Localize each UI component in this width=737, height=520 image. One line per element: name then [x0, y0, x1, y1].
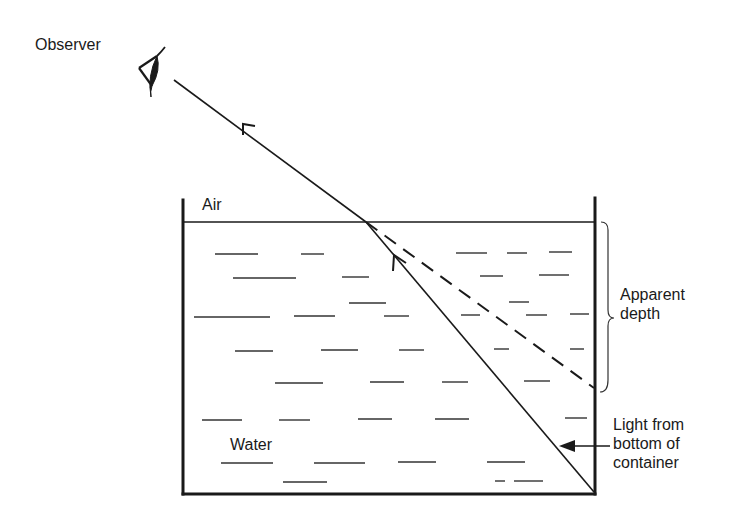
apparent-depth-label: Apparent depth	[620, 285, 685, 323]
apparent-depth-line1: Apparent	[620, 285, 685, 304]
pointer-arrowhead-icon	[559, 440, 575, 452]
light-source-label: Light from bottom of container	[613, 415, 684, 472]
water-label: Water	[230, 435, 272, 454]
light-label-line3: container	[613, 453, 684, 472]
eye-icon	[139, 47, 165, 97]
ray-in-water	[366, 222, 594, 492]
light-label-line2: bottom of	[613, 434, 684, 453]
light-ray	[174, 80, 594, 492]
light-pointer	[559, 440, 610, 452]
apparent-depth-brace	[600, 222, 614, 392]
light-label-line1: Light from	[613, 415, 684, 434]
air-label: Air	[202, 195, 222, 214]
apparent-ray-dashed	[366, 222, 594, 388]
apparent-depth-line2: depth	[620, 304, 685, 323]
observer-label: Observer	[35, 35, 101, 54]
